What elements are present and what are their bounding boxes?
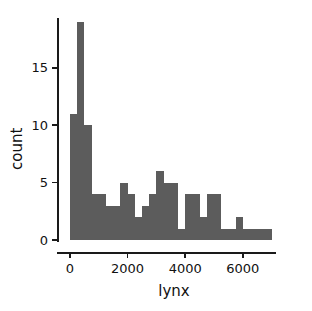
histogram-bar — [221, 229, 228, 240]
x-axis-title: lynx — [0, 284, 312, 299]
y-axis-title: count — [10, 128, 25, 170]
histogram-bar — [70, 114, 77, 240]
histogram-bar — [178, 229, 185, 240]
histogram-chart: 051015 0200040006000 lynx count — [0, 0, 312, 311]
x-tick-label: 4000 — [160, 262, 210, 275]
x-tick-mark — [69, 253, 71, 258]
histogram-bar — [99, 194, 106, 240]
histogram-bar — [257, 229, 269, 240]
x-tick-label: 2000 — [103, 262, 153, 275]
histogram-bar — [113, 206, 120, 240]
histogram-bar — [164, 183, 171, 240]
histogram-bar — [250, 229, 257, 240]
x-tick-label: 0 — [45, 262, 95, 275]
histogram-bar — [185, 194, 192, 240]
histogram-bar — [171, 183, 178, 240]
histogram-bar — [84, 125, 91, 240]
x-tick-mark — [184, 253, 186, 258]
histogram-bar — [238, 229, 250, 240]
histogram-bar — [142, 206, 149, 240]
x-tick-mark — [127, 253, 129, 258]
histogram-bar — [149, 194, 156, 240]
histogram-bar — [156, 171, 163, 240]
histogram-bar — [120, 183, 127, 240]
histogram-bar — [192, 194, 199, 240]
histogram-bar — [200, 217, 207, 240]
histogram-bar — [211, 229, 218, 240]
histogram-bar — [106, 206, 113, 240]
x-tick-label: 6000 — [218, 262, 268, 275]
histogram-bars — [0, 0, 312, 240]
histogram-bar — [228, 229, 235, 240]
histogram-bar — [128, 194, 135, 240]
histogram-bar — [77, 22, 84, 240]
histogram-bar — [92, 194, 99, 240]
x-tick-mark — [242, 253, 244, 258]
histogram-bar — [135, 217, 142, 240]
